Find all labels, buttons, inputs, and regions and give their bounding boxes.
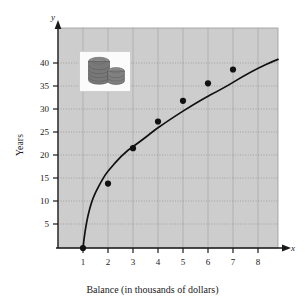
y-tick-label: 5 (29, 219, 49, 229)
y-tick-label: 15 (29, 173, 49, 183)
y-axis-title: Years (15, 115, 25, 175)
x-tick-label: 6 (201, 257, 215, 267)
y-tick-label: 30 (29, 104, 49, 114)
x-tick-label: 4 (151, 257, 165, 267)
data-point (155, 118, 161, 124)
data-point (130, 145, 136, 151)
y-tick-label: 10 (29, 196, 49, 206)
x-tick-label: 3 (126, 257, 140, 267)
x-tick-label: 7 (226, 257, 240, 267)
x-axis-variable-label: x (291, 243, 295, 253)
x-tick-label: 1 (76, 257, 90, 267)
y-axis-variable-label: y (51, 12, 55, 22)
coin-stacks-image (79, 51, 131, 92)
x-tick-label: 2 (101, 257, 115, 267)
figure-chart: y x 5 10 15 20 25 30 35 40 1 2 3 4 5 6 7… (0, 0, 305, 306)
y-tick-label: 40 (29, 58, 49, 68)
y-tick-label: 20 (29, 150, 49, 160)
data-point (205, 80, 211, 86)
data-point (230, 66, 236, 72)
x-tick-label: 8 (251, 257, 265, 267)
data-point (105, 181, 111, 187)
coin-stacks-illustration (80, 52, 130, 91)
short-coin-stack (108, 68, 125, 85)
x-tick-label: 5 (176, 257, 190, 267)
data-point (180, 98, 186, 104)
x-axis-title: Balance (in thousands of dollars) (0, 284, 305, 295)
y-tick-label: 25 (29, 127, 49, 137)
tall-coin-stack (89, 57, 110, 84)
y-tick-label: 35 (29, 81, 49, 91)
data-point (80, 245, 86, 251)
